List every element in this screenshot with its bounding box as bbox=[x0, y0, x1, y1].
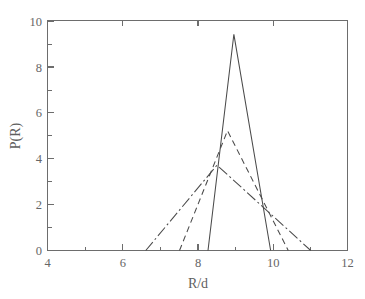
x-major-ticks bbox=[48, 244, 348, 251]
chart-figure: 4 6 8 10 12 0 2 4 6 8 10 R/d P(R) bbox=[0, 0, 365, 299]
x-tick-label: 4 bbox=[44, 256, 51, 270]
y-tick-labels: 0 2 4 6 8 10 bbox=[30, 15, 43, 258]
series-narrow bbox=[208, 34, 271, 250]
series-broad bbox=[146, 165, 311, 250]
x-tick-label: 12 bbox=[341, 256, 354, 270]
y-axis-title: P(R) bbox=[8, 122, 24, 149]
y-tick-label: 8 bbox=[36, 61, 42, 75]
y-tick-label: 6 bbox=[36, 106, 42, 120]
y-tick-label: 10 bbox=[30, 15, 43, 29]
y-tick-label: 2 bbox=[36, 198, 42, 212]
plot-canvas: 4 6 8 10 12 0 2 4 6 8 10 R/d P(R) bbox=[0, 0, 365, 299]
x-tick-labels: 4 6 8 10 12 bbox=[44, 256, 353, 270]
x-axis-title: R/d bbox=[188, 276, 208, 291]
y-tick-label: 4 bbox=[36, 152, 43, 166]
y-tick-label: 0 bbox=[36, 244, 42, 258]
y-minor-ticks bbox=[48, 44, 52, 228]
x-tick-label: 8 bbox=[195, 256, 201, 270]
x-top-ticks bbox=[123, 21, 273, 27]
x-tick-label: 6 bbox=[120, 256, 126, 270]
x-tick-label: 10 bbox=[267, 256, 280, 270]
series-group bbox=[146, 34, 311, 250]
axes-group bbox=[47, 21, 348, 251]
